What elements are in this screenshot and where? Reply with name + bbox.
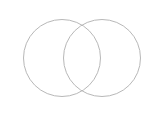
- venn-diagram: [0, 0, 157, 124]
- venn-circle-right[interactable]: [64, 20, 141, 97]
- diagram-canvas: [0, 0, 157, 124]
